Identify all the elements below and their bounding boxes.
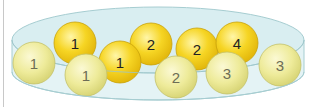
ball-number: 2 bbox=[193, 41, 201, 58]
ball-number: 2 bbox=[147, 36, 155, 53]
ball: 3 bbox=[259, 44, 301, 86]
ball-number: 1 bbox=[116, 54, 124, 71]
ball: 3 bbox=[206, 52, 248, 94]
ball: 2 bbox=[155, 56, 197, 98]
ball-number: 1 bbox=[30, 55, 38, 72]
ball-number: 3 bbox=[276, 57, 284, 74]
ball-number: 3 bbox=[223, 65, 231, 82]
ball-number: 4 bbox=[233, 35, 241, 52]
ball-number: 1 bbox=[71, 35, 79, 52]
ball: 1 bbox=[13, 42, 55, 84]
ball: 1 bbox=[65, 54, 107, 96]
ball-number: 1 bbox=[82, 67, 90, 84]
dish-illustration: 12241 11233 bbox=[0, 0, 310, 107]
ball-number: 2 bbox=[172, 69, 180, 86]
